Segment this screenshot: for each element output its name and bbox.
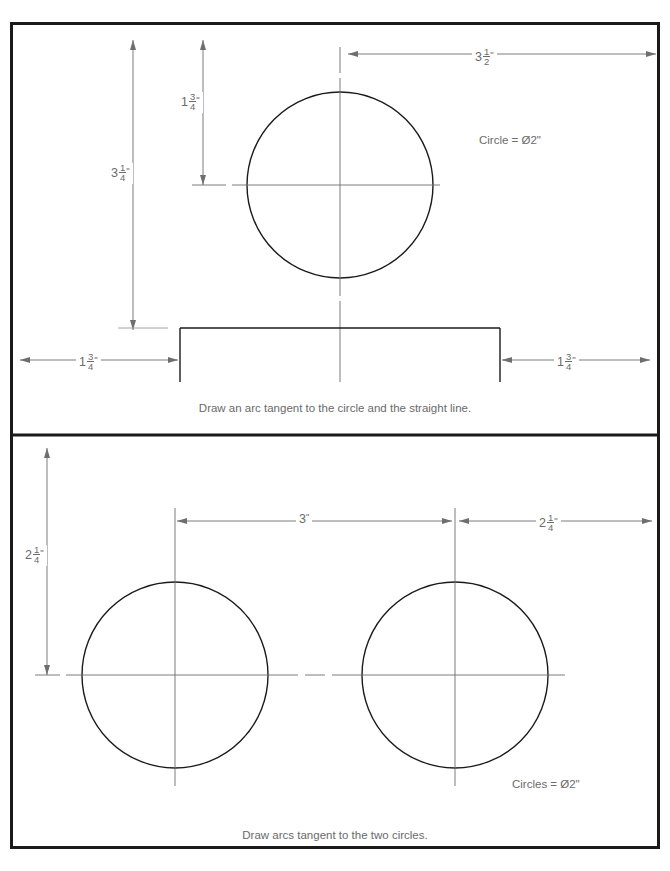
dim-whole: 2 xyxy=(25,549,32,562)
fraction: 14 xyxy=(547,513,554,534)
top-panel-caption: Draw an arc tangent to the circle and th… xyxy=(0,402,670,414)
fraction-numerator: 1 xyxy=(547,513,554,523)
inch-mark: " xyxy=(306,512,309,522)
dim-label-1-3-4-vertical: 134" xyxy=(178,92,203,113)
dim-bottomright-arrow-right xyxy=(640,357,650,363)
fraction-numerator: 3 xyxy=(189,92,196,102)
fraction-numerator: 3 xyxy=(565,352,572,362)
dim-whole: 2 xyxy=(539,517,546,530)
inch-mark: " xyxy=(196,95,199,105)
bottom-panel-caption: Draw arcs tangent to the two circles. xyxy=(0,829,670,841)
dim-whole: 1 xyxy=(181,96,188,109)
dim-label-1-3-4-bottom-right: 134" xyxy=(554,352,579,373)
drawing-canvas xyxy=(0,0,670,871)
dim-3inch-arrow-right xyxy=(442,518,452,524)
dim-2quarter-h-arrow-right xyxy=(642,518,652,524)
dim-1threequarter-v-arrow-bottom xyxy=(200,175,206,185)
fraction-denominator: 4 xyxy=(189,101,196,112)
dim-whole: 3 xyxy=(111,167,118,180)
dim-2quarter-v-arrow-bottom xyxy=(44,665,50,675)
fraction: 12 xyxy=(483,47,490,68)
fraction-denominator: 4 xyxy=(119,172,126,183)
fraction: 34 xyxy=(189,92,196,113)
fraction-numerator: 1 xyxy=(119,163,126,173)
inch-mark: " xyxy=(94,355,97,365)
fraction: 34 xyxy=(565,352,572,373)
dim-3inch-arrow-left xyxy=(177,518,187,524)
top-panel-note: Circle = Ø2" xyxy=(479,134,541,146)
dim-label-2-1-4-right: 214" xyxy=(536,513,561,534)
dim-1threequarter-v-arrow-top xyxy=(200,40,206,50)
fraction-denominator: 4 xyxy=(87,361,94,372)
dim-whole: 1 xyxy=(557,356,564,369)
fraction-denominator: 2 xyxy=(483,56,490,67)
dim-3quarter-arrow-bottom xyxy=(130,320,136,330)
inch-mark: " xyxy=(40,548,43,558)
fraction: 14 xyxy=(119,163,126,184)
worksheet-sheet: 312" 314" 134" 134" 134" Circle = Ø2" Dr… xyxy=(0,0,670,871)
inch-mark: " xyxy=(572,355,575,365)
dim-label-3-1-2: 312" xyxy=(472,47,497,68)
fraction-denominator: 4 xyxy=(547,522,554,533)
fraction-denominator: 4 xyxy=(33,554,40,565)
fraction-numerator: 1 xyxy=(33,545,40,555)
dim-label-3-inch: 3" xyxy=(296,513,312,526)
fraction: 14 xyxy=(33,545,40,566)
dim-bottomleft-arrow-right xyxy=(168,357,178,363)
dim-3half-arrow-right xyxy=(646,51,656,57)
dim-2quarter-v-arrow-top xyxy=(44,448,50,458)
dim-label-1-3-4-bottom-left: 134" xyxy=(76,352,101,373)
bottom-panel-note: Circles = Ø2" xyxy=(512,778,580,790)
dim-label-2-1-4-left: 214" xyxy=(22,545,47,566)
dim-whole: 3 xyxy=(299,513,306,526)
dim-whole: 1 xyxy=(79,356,86,369)
inch-mark: " xyxy=(554,516,557,526)
dim-3half-arrow-left xyxy=(348,51,358,57)
inch-mark: " xyxy=(490,50,493,60)
dim-bottomleft-arrow-left xyxy=(20,357,30,363)
dim-whole: 3 xyxy=(475,51,482,64)
dim-3quarter-arrow-top xyxy=(130,40,136,50)
dim-label-3-1-4: 314" xyxy=(108,163,133,184)
fraction-numerator: 3 xyxy=(87,352,94,362)
fraction-numerator: 1 xyxy=(483,47,490,57)
dim-2quarter-h-arrow-left xyxy=(459,518,469,524)
fraction: 34 xyxy=(87,352,94,373)
fraction-denominator: 4 xyxy=(565,361,572,372)
inch-mark: " xyxy=(126,166,129,176)
dim-bottomright-arrow-left xyxy=(502,357,512,363)
